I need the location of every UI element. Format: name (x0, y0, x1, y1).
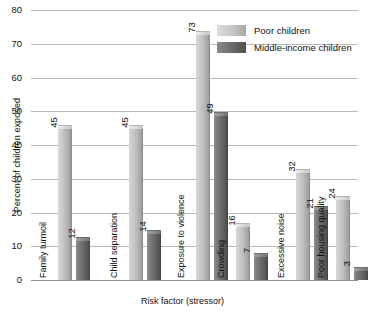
x-axis-baseline (31, 280, 358, 281)
category-label: Child separation (110, 213, 119, 278)
bar-top-face (336, 196, 350, 200)
y-axis-tick-label: 70 (0, 38, 22, 49)
bar-value-label: 7 (242, 248, 252, 253)
legend-label: Poor children (254, 25, 310, 36)
bar-value-label: 16 (227, 215, 237, 226)
bar-top-face (58, 125, 72, 129)
bar-top-face (236, 223, 250, 227)
legend-swatch (217, 25, 246, 36)
bar: 3 (354, 270, 368, 280)
category-label: Crowding (217, 240, 226, 278)
bar-value-label: 73 (187, 22, 197, 33)
bar-value-label: 32 (287, 161, 297, 172)
bar-top-face (76, 237, 90, 241)
bar-body (296, 172, 310, 280)
bar-value-label: 21 (305, 198, 315, 209)
gridline (31, 10, 358, 11)
bar-body (254, 256, 268, 280)
bar-top-face (354, 267, 368, 271)
bar: 73 (196, 34, 210, 280)
bar-value-label: 12 (67, 228, 77, 239)
y-axis-tick-label: 50 (0, 105, 22, 116)
bar-top-face (214, 112, 228, 116)
bar-top-face (296, 169, 310, 173)
y-axis-title: Percent of children exposed (12, 65, 22, 245)
bar-value-label: 45 (120, 117, 130, 128)
bar-value-label: 3 (342, 261, 352, 266)
bar-value-label: 24 (327, 188, 337, 199)
y-axis-tick-label: 80 (0, 4, 22, 15)
bar-body (354, 270, 368, 280)
bar-value-label: 49 (205, 103, 215, 114)
y-axis-tick-label: 0 (0, 274, 22, 285)
bar-body (196, 34, 210, 280)
bar-value-label: 14 (138, 221, 148, 232)
gridline (31, 111, 358, 112)
y-axis-tick-label: 20 (0, 207, 22, 218)
bar: 14 (147, 233, 161, 280)
category-label: Poor housing quality (317, 196, 326, 278)
legend: Poor childrenMiddle-income children (217, 22, 352, 56)
y-axis-tick-label: 30 (0, 173, 22, 184)
category-label: Family turmoil (39, 222, 48, 278)
bar-top-face (147, 230, 161, 234)
bar: 32 (296, 172, 310, 280)
category-label: Exposure to violence (177, 194, 186, 278)
bar: 12 (76, 240, 90, 281)
y-axis-tick-label: 10 (0, 240, 22, 251)
gridline (31, 145, 358, 146)
bar-top-face (196, 31, 210, 35)
legend-label: Middle-income children (254, 42, 352, 53)
bar-body (147, 233, 161, 280)
bar-body (336, 199, 350, 280)
gridline (31, 78, 358, 79)
bar: 45 (58, 128, 72, 280)
category-label: Excessive noise (277, 213, 286, 278)
bar-top-face (254, 253, 268, 257)
bar-body (76, 240, 90, 281)
y-axis-tick-label: 60 (0, 72, 22, 83)
bar-body (58, 128, 72, 280)
bar-top-face (129, 125, 143, 129)
bar-body (129, 128, 143, 280)
bar: 24 (336, 199, 350, 280)
x-axis-title: Risk factor (stressor) (0, 296, 365, 306)
bar-value-label: 45 (49, 117, 59, 128)
bar: 7 (254, 256, 268, 280)
legend-item: Poor children (217, 22, 352, 39)
legend-item: Middle-income children (217, 39, 352, 56)
legend-swatch (217, 42, 246, 53)
bar: 45 (129, 128, 143, 280)
y-axis-tick-label: 40 (0, 139, 22, 150)
